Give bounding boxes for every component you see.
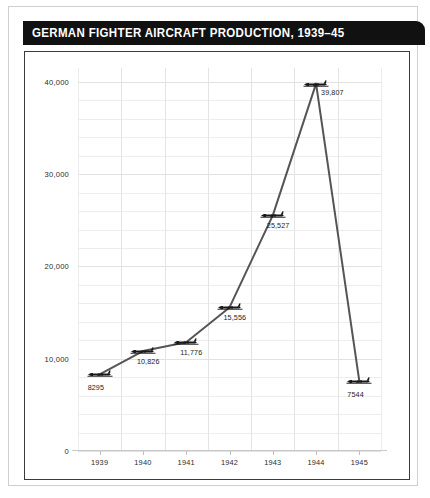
x-axis-tick-label: 1942 (221, 458, 238, 467)
data-point-marker-airplane (303, 76, 329, 87)
x-axis-tick-label: 1941 (178, 458, 195, 467)
production-line (78, 68, 381, 451)
chart-card: GERMAN FIGHTER AIRCRAFT PRODUCTION, 1939… (8, 6, 418, 486)
data-point-marker-airplane (346, 373, 372, 384)
x-axis-tick-label: 1940 (134, 458, 151, 467)
y-axis-tick-label: 30,000 (45, 170, 69, 179)
data-point-marker-airplane (173, 334, 199, 345)
data-point-label: 8295 (88, 383, 104, 392)
data-point-label: 11,776 (180, 348, 202, 357)
x-axis-tick (230, 451, 231, 455)
data-point-label: 15,556 (224, 313, 247, 322)
y-axis-tick-label: 20,000 (45, 262, 69, 271)
data-point-label: 25,527 (267, 221, 290, 230)
data-point-label: 39,807 (321, 88, 344, 97)
chart-title-bar: GERMAN FIGHTER AIRCRAFT PRODUCTION, 1939… (23, 21, 425, 45)
data-point-label: 7544 (347, 390, 363, 399)
data-point-marker-airplane (260, 207, 286, 218)
x-axis-tick (100, 451, 101, 455)
y-axis-tick-label: 0 (65, 447, 69, 456)
data-point-label: 10,826 (137, 357, 160, 366)
x-axis-tick-label: 1944 (307, 458, 324, 467)
x-axis-tick-label: 1939 (91, 458, 108, 467)
data-point-marker-airplane (217, 299, 243, 310)
x-axis-tick-label: 1943 (264, 458, 281, 467)
y-axis-tick-label: 10,000 (45, 354, 69, 363)
data-point-marker-airplane (130, 343, 156, 354)
chart-title: GERMAN FIGHTER AIRCRAFT PRODUCTION, 1939… (32, 26, 345, 40)
x-axis-tick-label: 1945 (351, 458, 368, 467)
x-axis-tick (186, 451, 187, 455)
series-layer (78, 68, 381, 451)
y-axis-tick-label: 40,000 (45, 77, 69, 86)
data-point-marker-airplane (87, 366, 113, 377)
x-axis-tick (273, 451, 274, 455)
x-axis-tick (316, 451, 317, 455)
plot-area: 010,00020,00030,00040,000193919401941194… (78, 68, 381, 451)
gridline-vertical (381, 68, 382, 451)
x-axis-tick (143, 451, 144, 455)
chart-frame: 010,00020,00030,00040,000193919401941194… (24, 51, 410, 480)
x-axis-tick (359, 451, 360, 455)
